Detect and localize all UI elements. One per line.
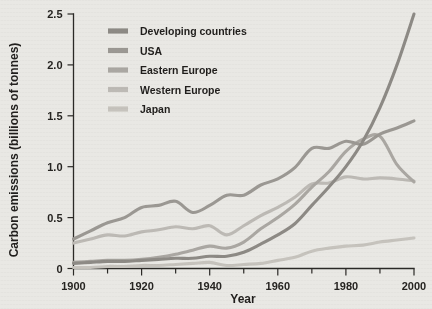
y-tick-label: 0.5 xyxy=(47,212,62,224)
legend-label: USA xyxy=(140,45,163,57)
y-axis-tick-labels: 00.51.01.52.02.5 xyxy=(47,8,62,275)
x-tick-label: 1940 xyxy=(197,280,221,292)
series-line-western-europe xyxy=(74,177,415,243)
x-tick-label: 1960 xyxy=(266,280,290,292)
legend-label: Eastern Europe xyxy=(140,64,218,76)
chart-legend: Developing countriesUSAEastern EuropeWes… xyxy=(108,25,247,115)
series-line-eastern-europe xyxy=(74,134,415,262)
y-tick-label: 1.0 xyxy=(47,161,62,173)
legend-label: Developing countries xyxy=(140,25,247,37)
y-tick-label: 2.5 xyxy=(47,8,62,20)
y-axis-title: Carbon emissions (billions of tonnes) xyxy=(7,43,21,258)
x-tick-label: 1920 xyxy=(129,280,153,292)
legend-label: Western Europe xyxy=(140,84,220,96)
chart-canvas: 00.51.01.52.02.5 19001920194019601980200… xyxy=(0,0,432,309)
y-tick-label: 1.5 xyxy=(47,110,62,122)
y-axis-tick-marks xyxy=(68,14,74,269)
x-tick-label: 1900 xyxy=(61,280,85,292)
x-tick-label: 2000 xyxy=(402,280,426,292)
legend-label: Japan xyxy=(140,103,170,115)
x-tick-label: 1980 xyxy=(334,280,358,292)
y-tick-label: 0 xyxy=(56,263,62,275)
y-tick-label: 2.0 xyxy=(47,59,62,71)
carbon-emissions-chart-figure: 00.51.01.52.02.5 19001920194019601980200… xyxy=(0,0,432,309)
x-axis-tick-labels: 190019201940196019802000 xyxy=(61,280,426,292)
x-axis-tick-marks xyxy=(74,269,415,276)
x-axis-title: Year xyxy=(230,292,256,306)
